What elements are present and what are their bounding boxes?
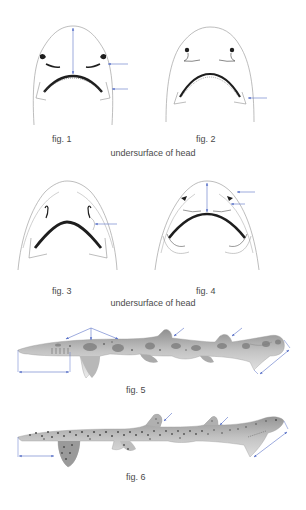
shark-lateral-illustration (0, 405, 306, 475)
shark-head-underside-illustration (15, 178, 120, 273)
figure-5-shark-lateral (0, 322, 306, 382)
shark-head-underside-illustration (162, 22, 257, 127)
figure-1-label: fig. 1 (52, 134, 72, 144)
saddle-blotches-arrows (66, 328, 118, 340)
figure-3-head-underside (15, 178, 120, 273)
figure-6-shark-lateral (0, 405, 306, 475)
second-dorsal-fin-arrow (232, 328, 242, 336)
figure-2-head-underside (162, 22, 257, 127)
figure-5-label: fig. 5 (126, 385, 146, 395)
figure-3-label: fig. 3 (52, 286, 72, 296)
row1-caption: undersurface of head (0, 148, 306, 158)
row2-caption: undersurface of head (0, 298, 306, 308)
figure-4-label: fig. 4 (196, 286, 216, 296)
shark-head-underside-illustration (28, 20, 118, 130)
second-dorsal-fin-arrow (220, 417, 228, 425)
figure-1-head-underside (28, 20, 118, 130)
figure-2-label: fig. 2 (196, 134, 216, 144)
first-dorsal-fin-arrow (174, 328, 184, 336)
first-dorsal-fin-arrow (164, 413, 172, 421)
figure-4-head-underside (153, 178, 263, 273)
shark-head-underside-illustration (153, 178, 263, 273)
shark-lateral-illustration (0, 322, 306, 382)
figure-6-label: fig. 6 (126, 472, 146, 482)
